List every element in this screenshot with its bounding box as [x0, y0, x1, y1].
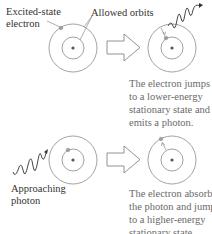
transition-arrow-icon: [107, 146, 140, 173]
atom-absorption-final: [148, 136, 196, 184]
photon-arrowhead-icon: [44, 149, 48, 154]
photon-arrowhead-icon: [199, 3, 203, 8]
emitted-photon-icon: [168, 5, 200, 28]
atom-emission: [148, 3, 203, 72]
emission-caption: The electron jumps to a lower-energy sta…: [129, 77, 210, 129]
transition-arrow-icon: [107, 34, 140, 61]
electron: [66, 148, 70, 152]
approaching-photon-label: Approaching photon: [11, 183, 66, 207]
atom-absorption-initial: [13, 136, 97, 184]
nucleus: [170, 158, 173, 161]
allowed-orbits-label: Allowed orbits: [91, 7, 154, 19]
nucleus: [71, 158, 74, 161]
electron: [159, 137, 163, 141]
electron: [164, 36, 168, 40]
orbit-leader-line-inner: [80, 16, 92, 40]
absorption-caption: The electron absorbs the photon and jump…: [129, 187, 212, 234]
nucleus: [71, 46, 74, 49]
nucleus: [170, 46, 173, 49]
excited-state-electron-label: Excited-state electron: [6, 6, 61, 30]
approaching-photon-icon: [13, 153, 46, 175]
